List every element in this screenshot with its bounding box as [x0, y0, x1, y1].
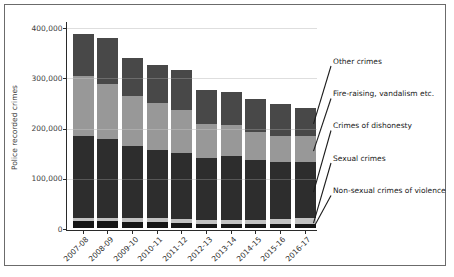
leader-lines	[5, 5, 447, 267]
legend-label: Sexual crimes	[333, 153, 386, 164]
leader-line	[314, 99, 332, 152]
legend-label: Other crimes	[333, 56, 382, 67]
leader-line	[314, 196, 332, 228]
leader-line	[314, 163, 332, 223]
legend-label: Crimes of dishonesty	[333, 120, 412, 131]
legend-label: Fire-raising, vandalism etc.	[333, 88, 434, 99]
leader-line	[314, 66, 332, 124]
leader-line	[314, 131, 332, 193]
legend-label: Non-sexual crimes of violence	[333, 185, 446, 196]
chart-frame: Police recorded crimes 0100,000200,00030…	[4, 4, 446, 266]
